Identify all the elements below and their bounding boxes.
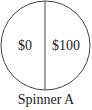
spinner-title: Spinner A (0, 92, 92, 108)
spinner-a-diagram: $0 $100 (0, 0, 92, 92)
section-label-right: $100 (52, 38, 80, 53)
section-label-left: $0 (18, 38, 32, 53)
